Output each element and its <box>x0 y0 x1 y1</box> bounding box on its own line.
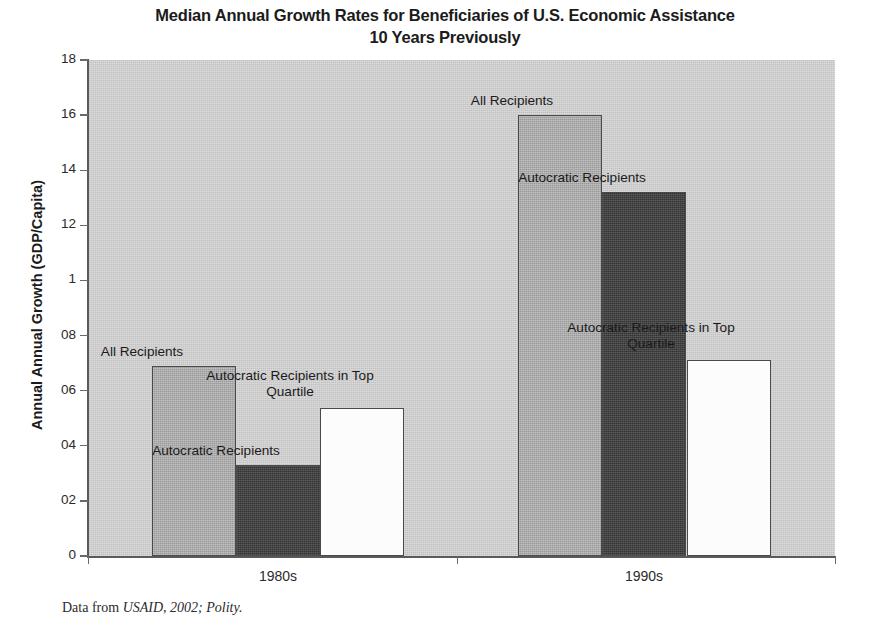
y-axis-tick <box>80 445 88 446</box>
bar <box>687 360 771 556</box>
y-axis-tick-label: 02 <box>28 492 76 508</box>
source-note-citation: USAID, 2002; Polity. <box>123 600 243 615</box>
y-axis-tick <box>80 280 88 281</box>
y-axis-tick <box>80 335 88 336</box>
y-axis-line <box>87 59 89 558</box>
y-axis-tick-label-text: 06 <box>34 382 76 397</box>
x-axis-tick <box>835 556 836 564</box>
y-axis-tick <box>80 170 88 171</box>
y-axis-tick-label: 0 <box>28 547 76 563</box>
chart-title-line-2: 10 Years Previously <box>60 26 830 48</box>
bar-value-label: Autocratic Recipients in Top Quartile <box>531 320 771 352</box>
x-axis-category-label: 1990s <box>554 568 734 584</box>
bar <box>320 408 404 556</box>
source-note-prefix: Data from <box>62 600 123 615</box>
bar-value-label: Autocratic Recipients in Top Quartile <box>175 368 405 400</box>
bar-value-label: Autocratic Recipients <box>111 443 321 459</box>
chart-page: Median Annual Growth Rates for Beneficia… <box>0 0 870 630</box>
y-axis-tick-label-text: 08 <box>34 327 76 342</box>
y-axis-tick <box>80 500 88 501</box>
y-axis-tick-label: 04 <box>28 437 76 453</box>
y-axis-tick-label-text: 04 <box>34 437 76 452</box>
x-axis-line <box>87 556 836 558</box>
y-axis-tick <box>80 225 88 226</box>
bar <box>236 465 320 556</box>
x-axis-category-label: 1980s <box>188 568 368 584</box>
x-axis-tick <box>88 556 89 564</box>
y-axis-tick-label-text: 0 <box>34 547 76 562</box>
bar <box>602 192 686 556</box>
x-axis-tick <box>457 556 458 564</box>
bar-value-label: All Recipients <box>47 344 237 360</box>
y-axis-tick-label: 14 <box>28 161 76 177</box>
y-axis-tick-label-text: 18 <box>34 51 76 66</box>
y-axis-tick <box>80 59 88 60</box>
chart-title-line-1: Median Annual Growth Rates for Beneficia… <box>155 6 734 24</box>
y-axis-title: Annual Annual Growth (GDP/Capita) <box>29 85 45 525</box>
bar-value-label: All Recipients <box>417 93 607 109</box>
y-axis-tick-label: 1 <box>28 271 76 287</box>
y-axis-tick-label-text: 12 <box>34 216 76 231</box>
bar-value-label: Autocratic Recipients <box>477 170 687 186</box>
y-axis-tick-label: 16 <box>28 106 76 122</box>
source-note: Data from USAID, 2002; Polity. <box>62 600 242 616</box>
y-axis-tick-label: 18 <box>28 51 76 67</box>
y-axis-tick-label: 08 <box>28 327 76 343</box>
chart-title: Median Annual Growth Rates for Beneficia… <box>60 4 830 48</box>
y-axis-tick <box>80 390 88 391</box>
y-axis-tick-label-text: 02 <box>34 492 76 507</box>
y-axis-tick-label: 06 <box>28 382 76 398</box>
y-axis-tick-label: 12 <box>28 216 76 232</box>
y-axis-tick-label-text: 14 <box>34 161 76 176</box>
y-axis-tick-label-text: 16 <box>34 106 76 121</box>
y-axis-tick <box>80 114 88 115</box>
y-axis-tick-label-text: 1 <box>34 271 76 286</box>
y-axis-tick <box>80 555 88 556</box>
